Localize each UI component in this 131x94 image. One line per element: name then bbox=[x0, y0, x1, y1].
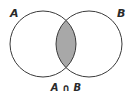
intersection-label: A ∩ B bbox=[50, 82, 81, 93]
set-a-label: A bbox=[9, 7, 19, 20]
venn-diagram: A B A ∩ B bbox=[0, 0, 131, 94]
set-b-label: B bbox=[117, 7, 125, 20]
